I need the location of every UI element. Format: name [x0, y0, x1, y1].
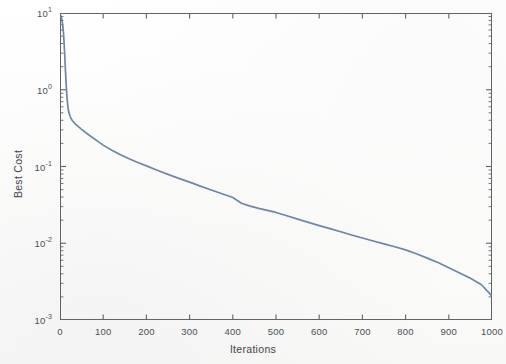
plot-canvas: [60, 13, 492, 320]
x-tick-label-800: 800: [397, 326, 413, 337]
y-tick-exponent-10e1: 1: [48, 6, 52, 13]
x-tick-label-900: 900: [441, 326, 457, 337]
x-axis-major-ticks: [60, 13, 492, 320]
y-tick-exponent-10e0: 0: [48, 83, 52, 90]
y-axis-major-ticks: [60, 13, 492, 320]
y-tick-exponent-10e-1: -1: [45, 160, 52, 167]
x-tick-label-100: 100: [95, 326, 111, 337]
x-tick-label-200: 200: [138, 326, 154, 337]
y-tick-label-10e1: 101: [14, 8, 52, 19]
y-tick-label-10e0: 100: [14, 84, 52, 95]
x-tick-label-400: 400: [225, 326, 241, 337]
x-tick-label-1000: 1000: [481, 326, 503, 337]
x-tick-label-300: 300: [181, 326, 197, 337]
best-cost-line-ink-bleed: [60, 14, 492, 296]
x-tick-label-500: 500: [268, 326, 284, 337]
x-tick-label-600: 600: [311, 326, 327, 337]
best-cost-line: [60, 14, 492, 296]
x-tick-label-0: 0: [57, 326, 62, 337]
best-cost-convergence-figure: 101 100 10-1 10-2 10-3 01002003004005006…: [0, 0, 506, 364]
y-tick-label-10e-3: 10-3: [14, 315, 52, 326]
y-tick-label-10e-2: 10-2: [14, 238, 52, 249]
x-axis-title: Iterations: [0, 343, 506, 355]
y-tick-exponent-10e-2: -2: [45, 237, 52, 244]
y-axis-title: Best Cost: [12, 129, 24, 219]
x-tick-label-700: 700: [354, 326, 370, 337]
y-tick-exponent-10e-3: -3: [45, 313, 52, 320]
